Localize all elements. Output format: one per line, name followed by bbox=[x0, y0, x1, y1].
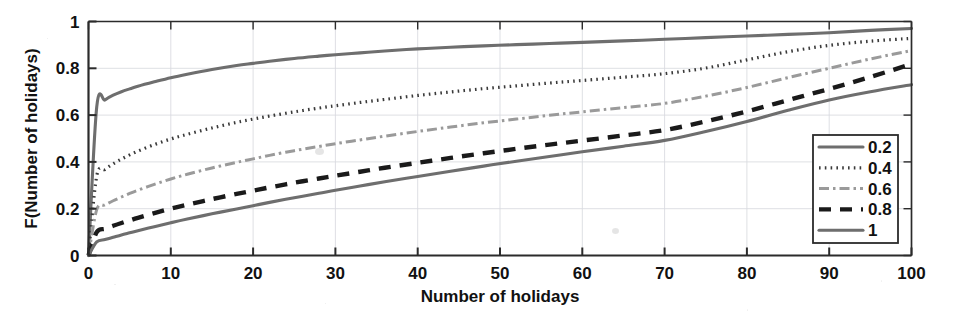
y-tick-label: 0.8 bbox=[56, 59, 80, 78]
x-tick-label: 30 bbox=[326, 264, 345, 283]
x-tick-label: 100 bbox=[897, 264, 925, 283]
x-tick-label: 20 bbox=[244, 264, 263, 283]
x-axis-label: Number of holidays bbox=[421, 287, 580, 306]
x-tick-label: 50 bbox=[491, 264, 510, 283]
x-tick-label: 0 bbox=[84, 264, 93, 283]
legend-label: 0.6 bbox=[868, 180, 892, 199]
y-tick-label: 0.6 bbox=[56, 106, 80, 125]
x-tick-label: 40 bbox=[408, 264, 427, 283]
x-tick-label: 90 bbox=[820, 264, 839, 283]
chart-figure: 00.20.40.60.810102030405060708090100Numb… bbox=[0, 0, 958, 323]
legend-label: 0.8 bbox=[868, 200, 892, 219]
legend-label: 0.4 bbox=[868, 159, 892, 178]
y-tick-label: 0.4 bbox=[56, 153, 80, 172]
scan-speck bbox=[612, 228, 619, 234]
legend-label: 0.2 bbox=[868, 138, 892, 157]
y-tick-label: 1 bbox=[70, 13, 79, 32]
x-tick-label: 80 bbox=[737, 264, 756, 283]
x-tick-label: 60 bbox=[573, 264, 592, 283]
y-tick-label: 0 bbox=[70, 247, 79, 266]
y-axis-label: F(Number of holidays) bbox=[22, 48, 41, 228]
scan-speck bbox=[315, 148, 324, 155]
chart-svg: 00.20.40.60.810102030405060708090100Numb… bbox=[0, 0, 958, 323]
x-tick-label: 10 bbox=[161, 264, 180, 283]
y-tick-label: 0.2 bbox=[56, 200, 80, 219]
legend-label: 1 bbox=[868, 221, 877, 240]
x-tick-label: 70 bbox=[655, 264, 674, 283]
